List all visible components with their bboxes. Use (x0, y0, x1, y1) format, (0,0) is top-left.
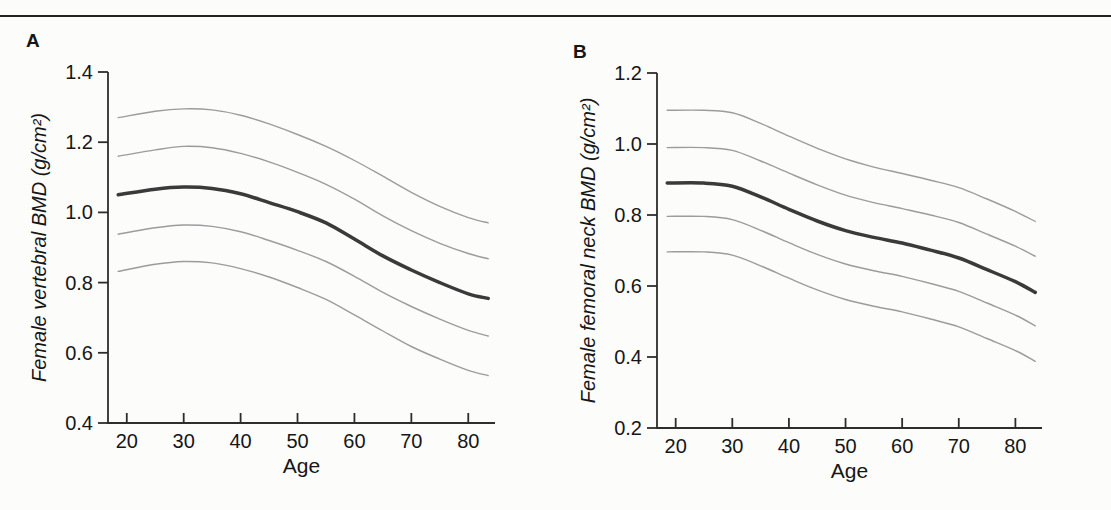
y-tick-label: 1.2 (614, 62, 642, 84)
curve-mean (667, 183, 1035, 293)
y-axis-title: Female vertebral BMD (g/cm²) (28, 113, 50, 382)
x-tick-label: 30 (721, 435, 743, 457)
x-tick-label: 80 (1004, 435, 1026, 457)
x-tick-label: 50 (286, 430, 308, 452)
x-tick-label: 20 (116, 430, 138, 452)
y-axis-title: Female femoral neck BMD (g/cm²) (577, 98, 599, 404)
y-tick-label: 0.6 (65, 342, 93, 364)
x-tick-label: 80 (457, 430, 479, 452)
x-axis-title: Age (283, 454, 320, 477)
x-tick-label: 20 (665, 435, 687, 457)
x-tick-label: 50 (834, 435, 856, 457)
x-tick-label: 40 (229, 430, 251, 452)
y-tick-label: 0.4 (65, 412, 93, 434)
y-tick-label: 1.0 (65, 201, 93, 223)
axes (108, 72, 495, 423)
y-tick-label: 0.6 (614, 275, 642, 297)
y-tick-label: 0.4 (614, 346, 642, 368)
x-tick-label: 60 (891, 435, 913, 457)
y-tick-label: 0.2 (614, 417, 642, 439)
y-tick-label: 1.2 (65, 131, 93, 153)
chart-b-femoral-neck-bmd: 0.20.40.60.81.01.220304050607080Female f… (555, 0, 1111, 510)
x-tick-label: 60 (343, 430, 365, 452)
y-tick-label: 1.0 (614, 133, 642, 155)
bmd-reference-figure: A B 0.40.60.81.01.21.420304050607080Fema… (0, 0, 1111, 510)
x-tick-label: 40 (778, 435, 800, 457)
axes (657, 73, 1042, 428)
curve-upper-band-1 (667, 147, 1035, 256)
x-tick-label: 30 (173, 430, 195, 452)
y-tick-label: 0.8 (614, 204, 642, 226)
curve-upper-band-2 (667, 110, 1035, 221)
y-tick-label: 1.4 (65, 61, 93, 83)
y-tick-label: 0.8 (65, 272, 93, 294)
curve-upper-band-2 (118, 109, 488, 223)
x-tick-label: 70 (948, 435, 970, 457)
x-tick-label: 70 (400, 430, 422, 452)
chart-a-vertebral-bmd: 0.40.60.81.01.21.420304050607080Female v… (0, 0, 556, 510)
x-axis-title: Age (831, 459, 868, 482)
